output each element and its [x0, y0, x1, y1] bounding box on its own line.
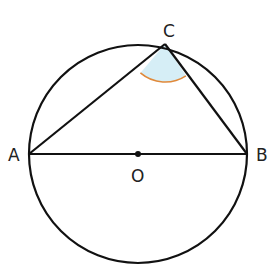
label-b: B [256, 145, 268, 165]
side-ac [29, 44, 165, 154]
side-bc [165, 44, 247, 154]
label-o: O [131, 166, 144, 186]
center-point-o [135, 151, 141, 157]
label-a: A [8, 145, 20, 165]
geometry-diagram: A B C O [0, 0, 278, 269]
label-c: C [163, 21, 175, 41]
